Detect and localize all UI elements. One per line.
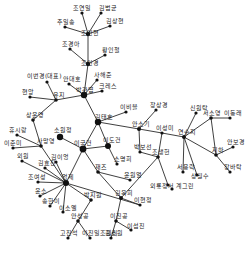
node-label: 김상현 (106, 17, 124, 24)
node-label: 연수지 (178, 128, 196, 136)
node-label: 계그린 (176, 182, 194, 190)
node-label: 조인경 (81, 59, 99, 66)
node-label: 이섭진 (127, 222, 145, 230)
node-dot (194, 111, 197, 114)
node-dot (76, 219, 80, 223)
node-dot (99, 11, 102, 14)
node-label: 안성공 (71, 212, 89, 219)
node-label: 이비블 (120, 103, 138, 111)
network-canvas: 조연일김범균추일송김상현조인현조경아황인철조인경이번경(대표)안대호사해준크레스… (0, 0, 247, 256)
node-label: 조연일 (73, 4, 91, 11)
edge (83, 146, 108, 149)
node-dot (48, 204, 51, 207)
node-label: 안소기 (132, 120, 150, 128)
node-label: 조생헌 (152, 148, 170, 155)
node-dot (137, 127, 141, 131)
node-dot (63, 25, 66, 28)
node-label: 소명희 (114, 155, 132, 163)
node-label: 유지 (53, 91, 65, 99)
node-dot (124, 110, 127, 113)
node-label: 이성미 (156, 124, 174, 132)
node-label: 재즈 (95, 163, 107, 171)
node-dot (15, 133, 18, 136)
node-dot (156, 155, 160, 159)
node-dot (20, 159, 23, 162)
node-dot (160, 131, 163, 134)
node-label: 사해준 (94, 71, 112, 79)
node-label: 박관엽 (76, 86, 94, 94)
node-label: 소원정 (54, 126, 72, 133)
node-dot (209, 116, 213, 120)
node-label: 엉제 (62, 173, 74, 181)
node-dot (54, 98, 58, 102)
node-dot (138, 150, 141, 153)
node-label: 이소엘 (59, 204, 77, 212)
node-dot (231, 145, 234, 148)
node-dot (80, 11, 83, 14)
edge (13, 146, 41, 148)
node-dot (36, 180, 39, 183)
node-dot (66, 236, 69, 239)
node-label: 김효진 (38, 159, 56, 166)
node-label: 이현정 (134, 196, 152, 204)
node-label: 조인현 (81, 29, 99, 36)
node-label: 김범균 (99, 4, 117, 11)
node-label: 휴시랑 (9, 126, 27, 134)
node-dot (103, 53, 106, 56)
node-dot (80, 146, 87, 153)
node-label: 안보경 (227, 138, 245, 145)
node-label: 크레스 (99, 82, 117, 90)
node-label: 상월수 (191, 172, 209, 180)
node-label: 이국건 (74, 139, 92, 147)
network-diagram: 조연일김범균추일송김상현조인현조경아황인철조인경이번경(대표)안대호사해준크레스… (0, 0, 247, 256)
node-dot (128, 178, 131, 181)
node-label: 이동래 (224, 109, 242, 117)
node-dot (154, 108, 157, 111)
node-dot (39, 144, 43, 148)
node-label: 지하 (212, 146, 224, 154)
node-label: 조경아 (62, 40, 80, 48)
node-dot (67, 82, 70, 85)
node-label: 이진공 (110, 212, 128, 220)
node-dot (115, 162, 118, 165)
edge (158, 157, 168, 185)
node-label: 안대호 (63, 75, 81, 83)
edge-layer (13, 13, 233, 238)
node-dot (109, 236, 112, 239)
node-label: 서용락 (177, 163, 195, 171)
node-label: 상운영 (26, 111, 44, 118)
node-label: 외원 (17, 152, 29, 160)
node-dot (181, 170, 184, 173)
node-dot (96, 170, 100, 174)
node-dot (45, 80, 48, 83)
node-label: 윤원열 (124, 171, 142, 178)
node-label: 박지원 (84, 191, 102, 199)
node-label: 이도건 (103, 136, 121, 144)
node-dot (119, 196, 123, 200)
node-label: 추일송 (57, 18, 75, 26)
node-label: 고진석 (60, 229, 78, 237)
node-dot (63, 180, 69, 186)
node-dot (228, 170, 231, 173)
node-dot (138, 203, 141, 206)
node-label: 외룡정서 (150, 182, 174, 190)
node-dot (214, 153, 218, 157)
node-label: 박보선 (134, 143, 152, 151)
edge (38, 182, 66, 183)
node-label: 장상경 (150, 101, 168, 108)
node-label: 장바탁 (224, 163, 242, 171)
node-label: 윤소 (35, 187, 47, 194)
node-dot (100, 89, 103, 92)
label-layer: 조연일김범균추일송김상현조인현조경아황인철조인경이번경(대표)안대호사해준크레스… (4, 4, 245, 237)
node-dot (108, 24, 111, 27)
node-dot (182, 135, 186, 139)
node-label: 서소영 (203, 109, 221, 117)
node-label: 이번경(대표) (27, 72, 62, 80)
node-dot (114, 219, 118, 223)
node-label: 김옥희 (115, 189, 133, 197)
node-dot (11, 146, 14, 149)
node-label: 김소원 (105, 229, 123, 236)
node-dot (88, 236, 91, 239)
node-label: 사망영 (37, 137, 55, 145)
node-label: 황인철 (102, 46, 120, 53)
